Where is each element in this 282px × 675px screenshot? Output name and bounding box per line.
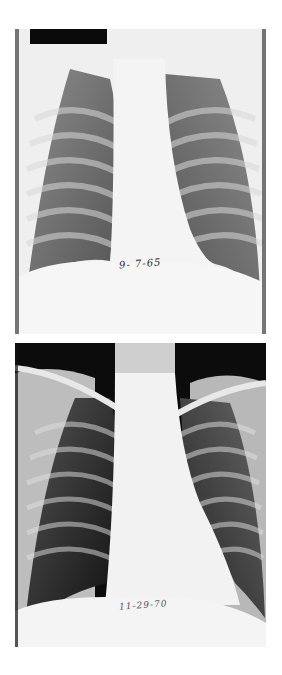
xray-image bbox=[15, 29, 266, 334]
chest-xray-1965: 9- 7-65 bbox=[15, 29, 266, 334]
redaction-bar bbox=[30, 29, 107, 44]
chest-xray-1970: 11-29-70 bbox=[15, 343, 266, 647]
